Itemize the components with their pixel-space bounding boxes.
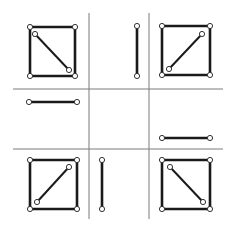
node-circle (159, 135, 164, 140)
cell-top-center (134, 23, 139, 78)
node-circle (66, 67, 71, 72)
cell-top-left (27, 24, 77, 78)
node-circle (27, 24, 32, 29)
node-circle (34, 199, 39, 204)
node-circle (27, 206, 32, 211)
node-circle (200, 199, 205, 204)
cell-top-right (159, 23, 212, 77)
edge-line (37, 167, 69, 202)
node-circle (134, 23, 139, 28)
node-circle (27, 157, 32, 162)
cell-bottom-right (159, 157, 212, 211)
edge-line (169, 34, 202, 69)
node-circle (74, 99, 79, 104)
grid-diagram (0, 0, 233, 235)
edge-line (35, 34, 69, 70)
node-circle (159, 157, 164, 162)
node-circle (159, 72, 164, 77)
node-circle (159, 206, 164, 211)
node-circle (134, 73, 139, 78)
node-circle (26, 99, 31, 104)
node-circle (99, 157, 104, 162)
node-circle (99, 206, 104, 211)
cell-bottom-left (27, 157, 79, 211)
node-circle (74, 157, 79, 162)
node-circle (199, 31, 204, 36)
node-circle (207, 157, 212, 162)
cell-middle-left (26, 99, 79, 104)
node-circle (207, 135, 212, 140)
node-circle (32, 31, 37, 36)
cell-middle-right (159, 135, 212, 140)
node-circle (207, 23, 212, 28)
node-circle (207, 72, 212, 77)
node-circle (66, 164, 71, 169)
node-circle (166, 66, 171, 71)
node-circle (72, 73, 77, 78)
cell-bottom-center (99, 157, 104, 211)
node-circle (72, 24, 77, 29)
node-circle (159, 23, 164, 28)
grid-cells (26, 23, 212, 211)
edge-line (170, 167, 203, 202)
node-circle (27, 73, 32, 78)
node-circle (74, 206, 79, 211)
node-circle (207, 206, 212, 211)
node-circle (167, 164, 172, 169)
